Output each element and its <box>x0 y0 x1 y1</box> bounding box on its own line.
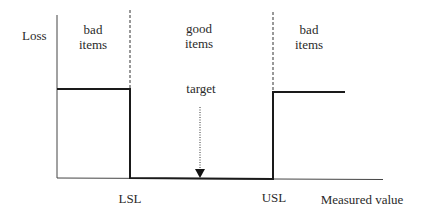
region-right-line2: items <box>295 38 323 52</box>
x-axis-label: Measured value <box>321 193 404 207</box>
region-left-line2: items <box>79 38 107 52</box>
loss-step-curve <box>57 89 345 179</box>
region-right-line1: bad <box>300 23 319 37</box>
target-arrowhead-icon <box>195 169 205 178</box>
region-middle-line1: good <box>186 22 212 36</box>
region-middle-line2: items <box>185 37 213 51</box>
loss-function-diagram <box>0 0 429 216</box>
usl-label: USL <box>262 191 287 205</box>
region-left-line1: bad <box>84 23 103 37</box>
target-label: target <box>186 82 215 96</box>
lsl-label: LSL <box>118 192 141 206</box>
y-axis-label: Loss <box>22 29 47 43</box>
